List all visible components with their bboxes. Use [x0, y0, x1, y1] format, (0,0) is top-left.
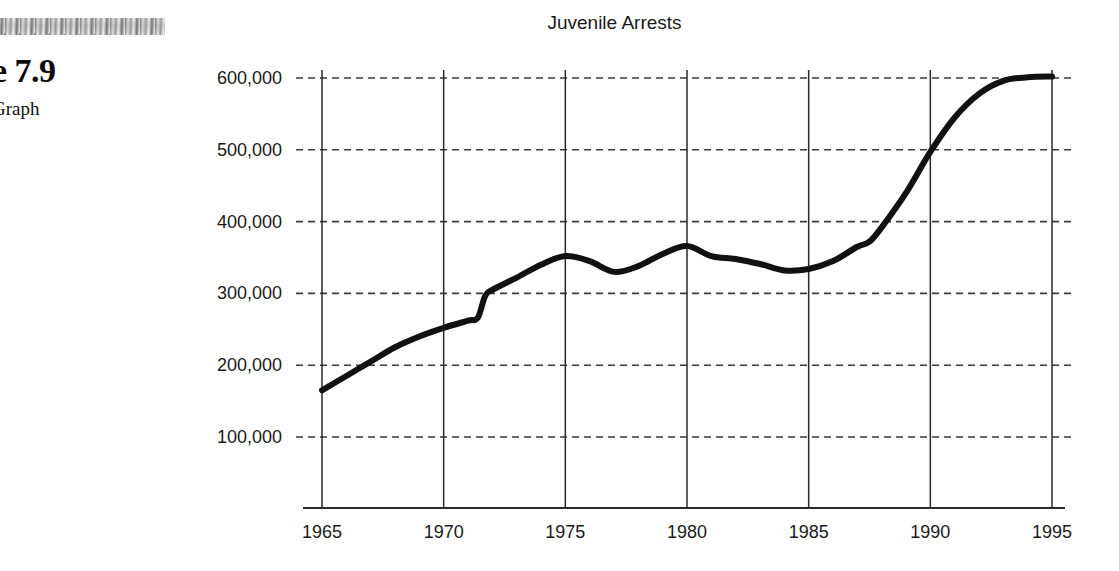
chart-container: Juvenile Arrests 100,000200,000300,00040…	[0, 0, 1119, 571]
x-tick-label-1975: 1975	[545, 522, 585, 542]
x-tick-label-1980: 1980	[667, 522, 707, 542]
x-tick-label-1990: 1990	[910, 522, 950, 542]
chart-plot: 100,000200,000300,000400,000500,000600,0…	[0, 0, 1119, 571]
x-tick-label-1985: 1985	[789, 522, 829, 542]
x-tick-label-1965: 1965	[302, 522, 342, 542]
x-axis-tick-labels: 1965197019751980198519901995	[302, 522, 1072, 542]
y-tick-label-500000: 500,000	[217, 140, 282, 160]
x-tick-label-1995: 1995	[1032, 522, 1072, 542]
y-tick-label-600000: 600,000	[217, 68, 282, 88]
y-tick-label-300000: 300,000	[217, 283, 282, 303]
y-tick-label-200000: 200,000	[217, 355, 282, 375]
figure-page: re 7.9 Graph Juvenile Arrests 100,000200…	[0, 0, 1119, 571]
x-tick-label-1970: 1970	[424, 522, 464, 542]
y-tick-label-400000: 400,000	[217, 212, 282, 232]
y-axis-tick-labels: 100,000200,000300,000400,000500,000600,0…	[217, 68, 282, 447]
y-tick-label-100000: 100,000	[217, 427, 282, 447]
horizontal-gridlines	[296, 78, 1072, 437]
